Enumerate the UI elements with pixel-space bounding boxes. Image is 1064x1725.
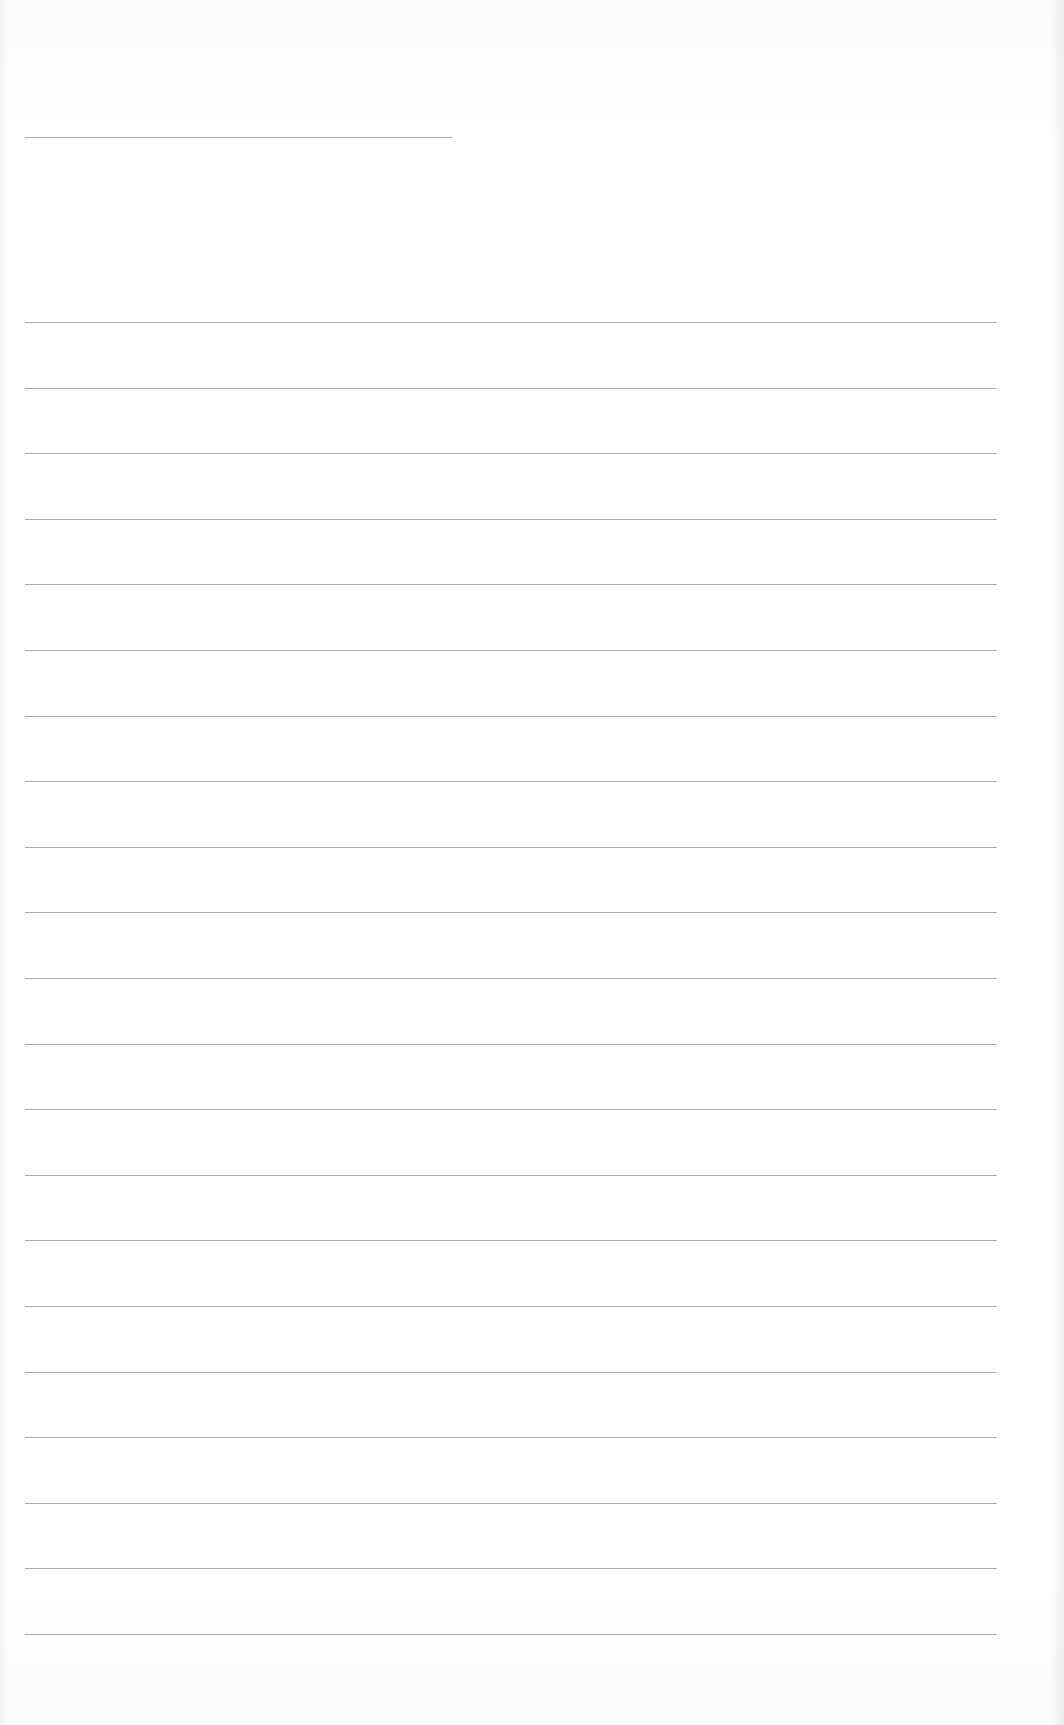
lined-paper-sheet: [0, 0, 1064, 1725]
writing-line: [25, 1568, 997, 1569]
writing-line: [25, 1437, 997, 1438]
writing-lines-container: [0, 0, 1064, 1725]
writing-line: [25, 519, 997, 520]
writing-line: [25, 978, 997, 979]
writing-line: [25, 1634, 997, 1635]
writing-line: [25, 912, 997, 913]
writing-line: [25, 1109, 997, 1110]
writing-line: [25, 1044, 997, 1045]
writing-line: [25, 1372, 997, 1373]
writing-line: [25, 716, 997, 717]
writing-line: [25, 847, 997, 848]
writing-line: [25, 322, 997, 323]
writing-line: [25, 453, 997, 454]
writing-line: [25, 584, 997, 585]
writing-line: [25, 1503, 997, 1504]
writing-line: [25, 388, 997, 389]
writing-line: [25, 781, 997, 782]
writing-line: [25, 650, 997, 651]
writing-line: [25, 1306, 997, 1307]
writing-line: [25, 1175, 997, 1176]
writing-line: [25, 1240, 997, 1241]
